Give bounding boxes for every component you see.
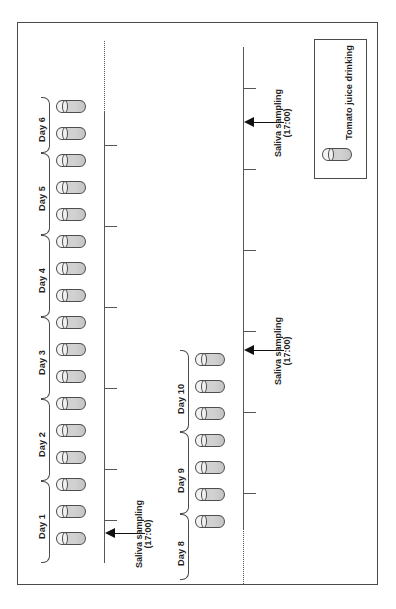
day-label-day4: Day 4	[38, 268, 48, 293]
saliva-sampling-time: (17:00)	[143, 519, 153, 548]
tomato-juice-cylinder	[56, 100, 86, 113]
tomato-juice-cylinder	[56, 262, 86, 275]
tomato-juice-cylinder	[56, 289, 86, 302]
lower-axis-tick	[243, 331, 256, 332]
tomato-juice-cylinder	[195, 353, 225, 366]
upper-axis-tick	[104, 145, 117, 146]
tomato-juice-cylinder	[195, 434, 225, 447]
tomato-juice-cylinder	[195, 488, 225, 501]
figure-canvas: Day 6 Day 5 Day 4 Day 3 Day 2 Day 1 Sali…	[0, 0, 396, 609]
tomato-juice-cylinder	[195, 461, 225, 474]
tomato-juice-cylinder	[56, 181, 86, 194]
tomato-juice-cylinder	[56, 235, 86, 248]
tomato-juice-cylinder	[56, 208, 86, 221]
upper-axis-tick	[104, 388, 117, 389]
day-label-day10: Day 10	[177, 384, 187, 414]
tomato-juice-cylinder	[195, 380, 225, 393]
figure-border-frame: Day 6 Day 5 Day 4 Day 3 Day 2 Day 1 Sali…	[17, 22, 378, 585]
legend-label: Tomato juice drinking	[345, 45, 355, 140]
saliva-sampling-label-upper: Saliva sampling (17:00)	[135, 500, 154, 568]
tomato-juice-cylinder	[56, 424, 86, 437]
upper-axis-tick	[104, 520, 117, 521]
upper-axis-tick	[104, 307, 117, 308]
legend-cylinder-icon	[322, 148, 352, 161]
lower-axis-dashed-break	[243, 526, 244, 584]
day-label-day8: Day 8	[177, 541, 187, 566]
saliva-sampling-time: (17:00)	[282, 336, 292, 365]
tomato-juice-cylinder	[195, 515, 225, 528]
saliva-sampling-time: (17:00)	[282, 108, 292, 137]
tomato-juice-cylinder	[56, 532, 86, 545]
tomato-juice-cylinder	[56, 343, 86, 356]
tomato-juice-cylinder	[56, 154, 86, 167]
tomato-juice-cylinder	[56, 316, 86, 329]
tomato-juice-cylinder	[56, 478, 86, 491]
tomato-juice-cylinder	[56, 505, 86, 518]
upper-axis-dashed-break	[104, 41, 105, 114]
tomato-juice-cylinder	[195, 407, 225, 420]
lower-axis-tick	[243, 250, 256, 251]
tomato-juice-cylinder	[56, 451, 86, 464]
day-label-day6: Day 6	[38, 117, 48, 142]
tomato-juice-cylinder	[56, 370, 86, 383]
lower-axis-tick	[243, 493, 256, 494]
tomato-juice-cylinder	[56, 127, 86, 140]
day-label-day9: Day 9	[177, 468, 187, 493]
upper-axis-tick	[104, 469, 117, 470]
saliva-sampling-label-lower-bottom: Saliva sampling (17:00)	[274, 317, 293, 385]
day-label-day2: Day 2	[38, 432, 48, 457]
tomato-juice-cylinder	[56, 397, 86, 410]
upper-axis-line	[104, 111, 105, 563]
lower-axis-tick	[243, 169, 256, 170]
saliva-sampling-label-lower-top: Saliva sampling (17:00)	[274, 89, 293, 157]
lower-axis-tick	[243, 88, 256, 89]
legend-box: Tomato juice drinking	[314, 39, 367, 179]
day-label-day1: Day 1	[38, 514, 48, 539]
day-label-day3: Day 3	[38, 350, 48, 375]
day-label-day5: Day 5	[38, 186, 48, 211]
lower-axis-tick	[243, 412, 256, 413]
upper-axis-tick	[104, 226, 117, 227]
